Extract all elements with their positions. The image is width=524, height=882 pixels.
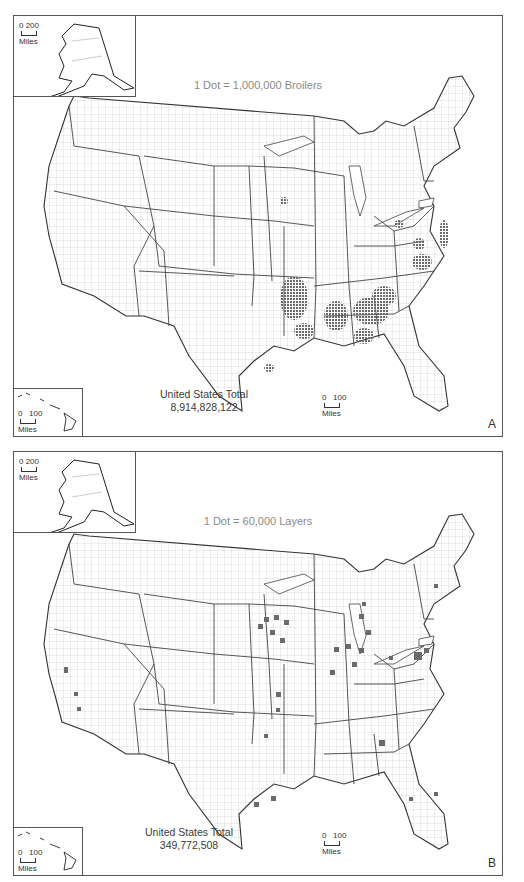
scale-values: 0 200 xyxy=(19,457,39,466)
total-value: 8,914,828,122 xyxy=(129,401,279,414)
scale-unit: Miles xyxy=(19,37,38,46)
scale-values: 0 200 xyxy=(19,21,39,30)
total-label: United States Total xyxy=(129,388,279,401)
alaska-scale-bar: 0 200 Miles xyxy=(19,457,39,482)
panel-letter: A xyxy=(488,417,496,431)
scale-values: 0 100 xyxy=(322,831,346,840)
scale-values: 0 100 xyxy=(18,409,42,418)
main-scale-bar: 0 100 Miles xyxy=(322,831,346,856)
scale-unit: Miles xyxy=(19,473,38,482)
scale-unit: Miles xyxy=(322,847,341,856)
main-scale-bar: 0 100 Miles xyxy=(322,393,346,418)
us-total: United States Total 349,772,508 xyxy=(114,826,264,852)
dot-legend: 1 Dot = 1,000,000 Broilers xyxy=(14,79,502,91)
total-label: United States Total xyxy=(114,826,264,839)
us-total: United States Total 8,914,828,122 xyxy=(129,388,279,414)
alaska-scale-bar: 0 200 Miles xyxy=(19,21,39,46)
scale-unit: Miles xyxy=(322,409,341,418)
scale-unit: Miles xyxy=(18,425,37,434)
scale-unit: Miles xyxy=(18,864,37,873)
hawaii-inset: 0 100 Miles xyxy=(13,827,83,876)
scale-values: 0 100 xyxy=(322,393,346,402)
dot-legend: 1 Dot = 60,000 Layers xyxy=(14,515,502,527)
panel-letter: B xyxy=(488,856,496,870)
hawaii-scale-bar: 0 100 Miles xyxy=(18,409,42,434)
map-panel-layers: 0 200 Miles 1 Dot = 60,000 Layers United… xyxy=(13,451,503,876)
total-value: 349,772,508 xyxy=(114,839,264,852)
map-panel-broilers: 0 200 Miles 1 Dot = 1,000,000 Broilers U… xyxy=(13,15,503,437)
hawaii-scale-bar: 0 100 Miles xyxy=(18,848,42,873)
hawaii-inset: 0 100 Miles xyxy=(13,388,83,437)
scale-values: 0 100 xyxy=(18,848,42,857)
